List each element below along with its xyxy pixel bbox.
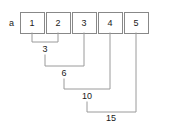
sum-brackets: 361015 [32, 33, 136, 122]
array-cell[interactable]: 1 [21, 13, 45, 34]
array-cell-value: 1 [29, 18, 34, 28]
array-cell[interactable]: 2 [47, 13, 71, 34]
sum-bracket: 10 [64, 33, 110, 101]
bracket-sum-label: 15 [106, 113, 116, 122]
bracket-connector-line [45, 33, 84, 66]
bracket-connector-line [87, 33, 136, 112]
array-cell[interactable]: 4 [99, 13, 123, 34]
array-cell[interactable]: 5 [125, 13, 149, 34]
array-cell-value: 5 [133, 18, 138, 28]
array-name-label: a [9, 18, 14, 28]
array-cell-value: 2 [55, 18, 60, 28]
sum-bracket: 6 [45, 33, 84, 78]
bracket-sum-label: 10 [82, 91, 92, 101]
bracket-connector-line [64, 33, 110, 89]
bracket-sum-label: 6 [61, 68, 66, 78]
sum-bracket: 15 [87, 33, 136, 122]
array-cells: 12345 [21, 13, 149, 34]
array-cell-value: 3 [81, 18, 86, 28]
bracket-sum-label: 3 [42, 44, 47, 54]
sum-bracket: 3 [32, 33, 58, 54]
array-cell[interactable]: 3 [73, 13, 97, 34]
diagram-canvas: a 12345 361015 [0, 0, 169, 122]
prefix-sum-diagram: a 12345 361015 [0, 0, 169, 122]
bracket-connector-line [32, 33, 58, 42]
array-cell-value: 4 [107, 18, 112, 28]
